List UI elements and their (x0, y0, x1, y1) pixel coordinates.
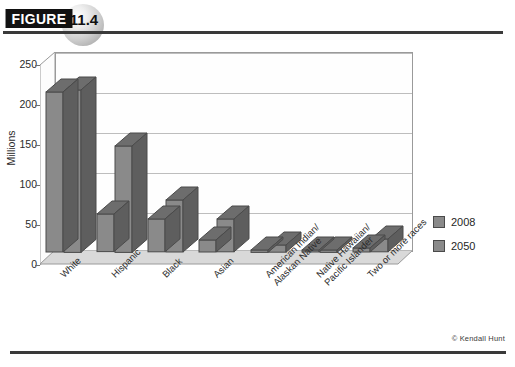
footer-divider (10, 351, 506, 354)
legend-swatch-2050 (433, 240, 445, 252)
figure-header: FIGURE 11.4 (0, 4, 515, 34)
legend-label-2008: 2008 (451, 216, 475, 228)
figure-chart: 050100150200250 Millions WhiteHispanicBl… (0, 34, 515, 334)
chart-legend: 20082050 (433, 216, 503, 264)
bar-2008-1 (97, 201, 131, 254)
bar-2008-4 (251, 237, 285, 254)
bar-2008-0 (46, 79, 80, 254)
bar-2008-2 (148, 206, 182, 254)
bar-2008-3 (199, 227, 233, 254)
figure-tag-label: FIGURE (6, 9, 73, 28)
figure-number: 11.4 (66, 9, 102, 29)
copyright-credit: © Kendall Hunt (452, 334, 505, 343)
legend-swatch-2008 (433, 216, 445, 228)
legend-item-2050: 2050 (433, 240, 503, 252)
bar-series-container (0, 34, 515, 334)
legend-item-2008: 2008 (433, 216, 503, 228)
legend-label-2050: 2050 (451, 240, 475, 252)
